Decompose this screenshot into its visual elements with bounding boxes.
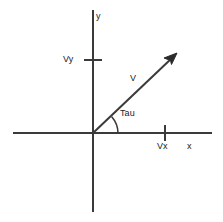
y-axis-label: y [96,12,101,21]
vector-diagram-canvas: y Vy V Tau Vx x [0,0,223,222]
vector-shaft [93,58,172,133]
angle-arc [112,117,118,133]
vx-component-label: Vx [157,142,168,151]
angle-label: Tau [120,109,135,118]
diagram-svg [0,0,223,222]
vy-component-label: Vy [63,55,73,64]
vector-label: V [130,74,136,83]
x-axis-label: x [187,142,192,151]
